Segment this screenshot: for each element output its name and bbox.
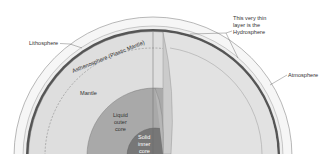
atmosphere-leader xyxy=(270,75,287,85)
outer-core-label-line2: outer xyxy=(114,119,127,125)
outer-core-label-line1: Liquid xyxy=(113,112,128,118)
outer-core-label-line3: core xyxy=(115,126,126,132)
hydrosphere-label-line3: Hydrosphere xyxy=(233,29,265,35)
atmosphere-label: Atmosphere xyxy=(288,72,318,78)
hydrosphere-label-line2: layer is the xyxy=(233,22,260,28)
inner-core-label-line3: core xyxy=(139,148,150,154)
inner-core-label-line2: inner xyxy=(138,141,151,147)
mantle-label: Mantle xyxy=(80,90,97,96)
lithosphere-leader xyxy=(60,44,70,45)
hydrosphere-label-line1: This very thin xyxy=(233,15,266,21)
earth-layers-diagram: Lithosphere Asthenosphere (Plastic Mantl… xyxy=(0,0,325,166)
lithosphere-label: Lithosphere xyxy=(29,40,58,46)
inner-core-label-line1: Solid xyxy=(138,134,150,140)
